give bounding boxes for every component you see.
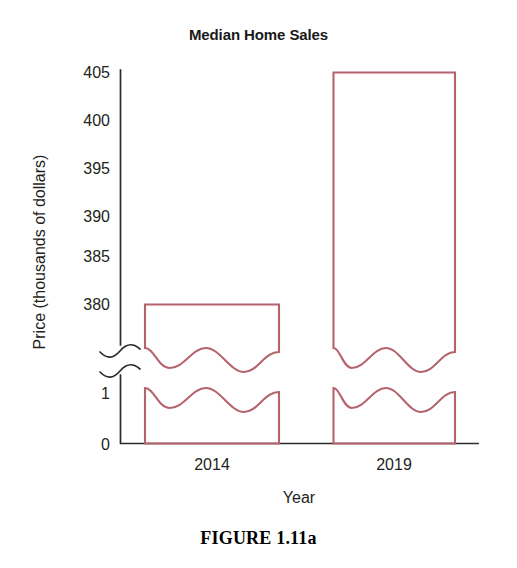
bar-chart-plot: 405 400 395 390 385 380 1 0 2014 2019 Ye… — [0, 0, 517, 520]
y-axis-label: Price (thousands of dollars) — [31, 155, 48, 350]
y-axis-lower-segment-and-x-axis — [121, 375, 479, 444]
ytick-label-400: 400 — [83, 112, 110, 129]
ytick-label-395: 395 — [83, 160, 110, 177]
figure-caption: FIGURE 1.11a — [0, 528, 517, 549]
figure-container: Median Home Sales 405 400 395 390 385 38… — [0, 0, 517, 568]
bar-2019-lower-block — [334, 388, 456, 444]
bar-2014-upper-block — [145, 305, 279, 373]
ytick-label-405: 405 — [83, 64, 110, 81]
bar-2014-lower-block — [145, 388, 279, 444]
ytick-label-1: 1 — [101, 385, 110, 402]
ytick-label-0: 0 — [101, 436, 110, 453]
axis-break-squiggle-upper — [100, 345, 140, 357]
xtick-label-2014: 2014 — [194, 456, 230, 473]
x-axis-label: Year — [283, 489, 316, 506]
xtick-label-2019: 2019 — [376, 456, 412, 473]
ytick-label-390: 390 — [83, 208, 110, 225]
ytick-label-380: 380 — [83, 296, 110, 313]
ytick-label-385: 385 — [83, 248, 110, 265]
bar-2019-upper-block — [334, 73, 456, 373]
